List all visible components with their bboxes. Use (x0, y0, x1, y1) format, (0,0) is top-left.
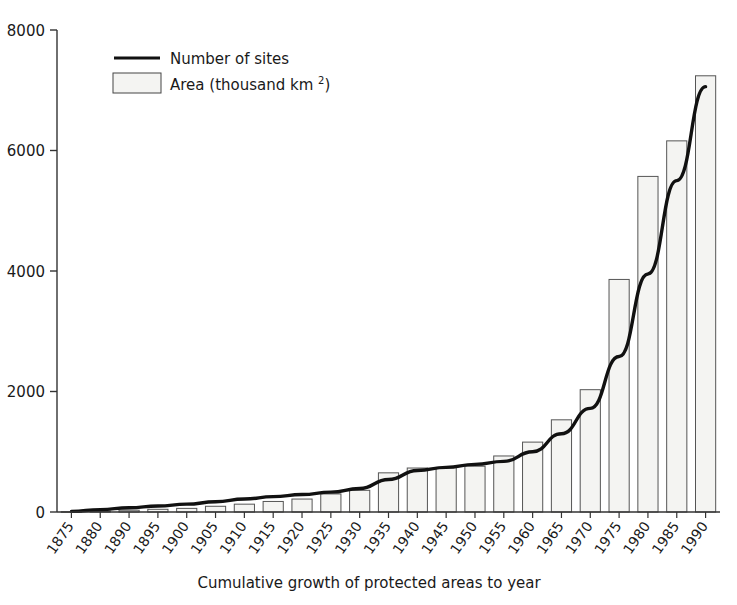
bar-1920 (292, 499, 312, 512)
growth-of-protected-areas-chart: 02000400060008000 1875188018901895190019… (0, 0, 737, 605)
bar-1975 (609, 279, 629, 512)
bar-1980 (638, 176, 658, 512)
bar-1955 (494, 456, 514, 512)
y-tick-label-6000: 6000 (7, 142, 45, 160)
y-tick-label-4000: 4000 (7, 263, 45, 281)
legend-label-number-of-sites: Number of sites (170, 50, 289, 68)
y-tick-label-8000: 8000 (7, 22, 45, 40)
bar-1905 (205, 506, 225, 512)
y-tick-label-0: 0 (35, 504, 45, 522)
bar-1940 (407, 468, 427, 512)
bar-1910 (234, 504, 254, 512)
bar-1950 (465, 466, 485, 512)
legend-label-area: Area (thousand km 2) (170, 75, 330, 94)
x-axis-title: Cumulative growth of protected areas to … (197, 574, 541, 592)
bar-1990 (696, 76, 716, 512)
bar-1915 (263, 501, 283, 512)
bar-1925 (321, 494, 341, 512)
bar-1930 (350, 490, 370, 512)
y-tick-label-2000: 2000 (7, 383, 45, 401)
bar-1945 (436, 467, 456, 512)
legend-label-area-main: Area (thousand km (170, 76, 318, 94)
chart-figure: 02000400060008000 1875188018901895190019… (0, 0, 737, 605)
legend-box-marker (113, 73, 161, 93)
bar-1985 (667, 141, 687, 512)
legend-label-area-tail: ) (324, 76, 330, 94)
